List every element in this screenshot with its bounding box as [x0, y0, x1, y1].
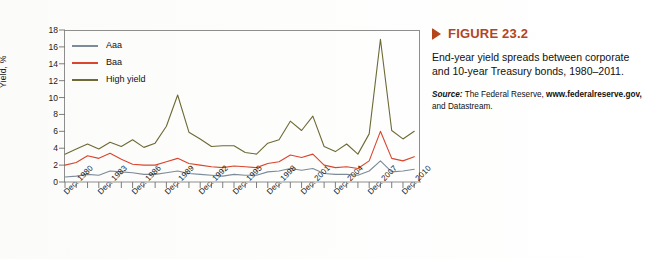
figure-title: FIGURE 23.2	[448, 26, 528, 41]
legend-label: Baa	[106, 58, 122, 67]
y-tick-2: 2	[38, 161, 58, 170]
y-tick-12: 12	[38, 77, 58, 86]
legend-swatch-icon	[72, 79, 98, 81]
source-label: Source:	[432, 90, 462, 99]
source-url: www.federalreserve.gov,	[546, 90, 642, 99]
figure-caption-panel: FIGURE 23.2 End-year yield spreads betwe…	[432, 26, 644, 112]
y-axis-label: Yield, %	[0, 56, 8, 88]
chart-panel: Yield, % 024681012141618 Dec. 1980Dec. 1…	[0, 0, 420, 259]
source-text-2: and Datastream.	[432, 102, 493, 111]
y-tick-6: 6	[38, 127, 58, 136]
y-tick-0: 0	[38, 178, 58, 187]
chart-legend: AaaBaaHigh yield	[72, 38, 192, 89]
x-axis-tick-labels: Dec. 1980Dec. 1983Dec. 1986Dec. 1989Dec.…	[64, 188, 424, 254]
legend-swatch-icon	[72, 45, 98, 47]
legend-swatch-icon	[72, 62, 98, 64]
figure-page: Yield, % 024681012141618 Dec. 1980Dec. 1…	[0, 0, 654, 259]
legend-label: High yield	[106, 75, 146, 84]
legend-item-high-yield: High yield	[72, 72, 192, 87]
legend-item-baa: Baa	[72, 55, 192, 70]
legend-item-aaa: Aaa	[72, 38, 192, 53]
figure-source: Source: The Federal Reserve, www.federal…	[432, 89, 644, 112]
source-text-1: The Federal Reserve,	[465, 90, 544, 99]
figure-heading: FIGURE 23.2	[432, 26, 644, 41]
y-tick-18: 18	[38, 26, 58, 35]
y-tick-16: 16	[38, 43, 58, 52]
legend-label: Aaa	[106, 41, 122, 50]
y-axis-tick-labels: 024681012141618	[36, 30, 58, 182]
y-tick-4: 4	[38, 144, 58, 153]
y-tick-14: 14	[38, 60, 58, 69]
triangle-right-icon	[432, 28, 441, 40]
y-tick-10: 10	[38, 94, 58, 103]
y-tick-8: 8	[38, 110, 58, 119]
figure-description: End-year yield spreads between corporate…	[432, 50, 644, 79]
